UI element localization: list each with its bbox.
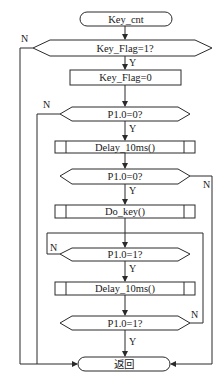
subroutine-do-key-label: Do_key() [105, 206, 146, 218]
label-check-press-1-no: N [43, 99, 50, 110]
flowchart: Key_cnt Key_Flag=1? Key_Flag=0 P1.0=0? D… [0, 0, 222, 387]
decision-press-2-label: P1.0=0? [108, 171, 143, 182]
decision-press-2: P1.0=0? [60, 169, 190, 184]
subroutine-delay-1: Delay_10ms() [55, 141, 195, 154]
end-label: 返回 [114, 359, 134, 370]
label-check-release-1-no: N [50, 242, 57, 253]
decision-release-1-label: P1.0=1? [108, 249, 143, 260]
label-check-flag-no: N [21, 33, 28, 44]
subroutine-do-key: Do_key() [55, 205, 195, 218]
end-terminal: 返回 [78, 357, 170, 371]
label-check-release-1-yes: Y [129, 263, 136, 274]
subroutine-delay-2-label: Delay_10ms() [95, 283, 156, 295]
decision-press-1: P1.0=0? [60, 107, 190, 121]
label-check-press-2-no: N [203, 179, 210, 190]
start-label: Key_cnt [108, 14, 144, 25]
decision-release-1: P1.0=1? [60, 248, 190, 261]
decision-key-flag-label: Key_Flag=1? [96, 43, 154, 54]
decision-press-1-label: P1.0=0? [108, 109, 143, 120]
decision-release-2-label: P1.0=1? [108, 318, 143, 329]
label-check-press-2-yes: Y [129, 185, 136, 196]
subroutine-delay-2: Delay_10ms() [55, 282, 195, 295]
start-terminal: Key_cnt [80, 12, 172, 26]
decision-release-2: P1.0=1? [60, 316, 190, 330]
edge-check-press-2-no [171, 176, 212, 364]
label-check-press-1-yes: Y [129, 123, 136, 134]
label-check-release-2-yes: Y [129, 336, 136, 347]
process-clear-flag: Key_Flag=0 [70, 70, 181, 85]
label-check-release-2-no: N [191, 309, 198, 320]
decision-key-flag: Key_Flag=1? [33, 40, 212, 56]
label-check-flag-yes: Y [129, 57, 136, 68]
subroutine-delay-1-label: Delay_10ms() [95, 142, 156, 154]
process-clear-flag-label: Key_Flag=0 [99, 72, 152, 83]
